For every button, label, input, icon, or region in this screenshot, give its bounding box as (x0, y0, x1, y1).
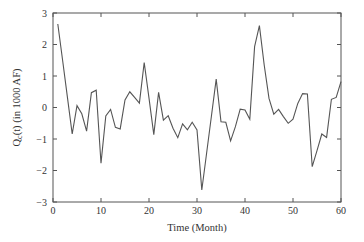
y-axis-ticks: −3−2−10123 (36, 8, 341, 208)
x-tick-label: 40 (240, 205, 250, 216)
plot-area-border (53, 13, 341, 202)
x-tick-label: 60 (336, 205, 346, 216)
y-axis-title: Qc(t) (in 1000 AF) (11, 68, 24, 146)
line-chart: 0102030405060 −3−2−10123 Time (Month) Qc… (0, 0, 364, 242)
x-tick-label: 50 (288, 205, 298, 216)
y-tick-label: −2 (36, 165, 47, 176)
plot-frame (53, 13, 341, 202)
y-tick-label: 0 (42, 102, 47, 113)
y-tick-label: 3 (42, 8, 47, 19)
y-axis-title-rest: (t) (in 1000 AF) (11, 68, 23, 135)
x-axis-ticks: 0102030405060 (51, 13, 347, 216)
x-axis-title: Time (Month) (167, 222, 227, 234)
y-tick-label: −1 (36, 134, 47, 145)
data-series (58, 24, 341, 190)
y-tick-label: 1 (42, 71, 47, 82)
x-tick-label: 0 (51, 205, 56, 216)
y-tick-label: −3 (36, 197, 47, 208)
x-tick-label: 20 (144, 205, 154, 216)
x-tick-label: 30 (192, 205, 202, 216)
x-tick-label: 10 (96, 205, 106, 216)
y-tick-label: 2 (42, 39, 47, 50)
series-line (58, 24, 341, 190)
